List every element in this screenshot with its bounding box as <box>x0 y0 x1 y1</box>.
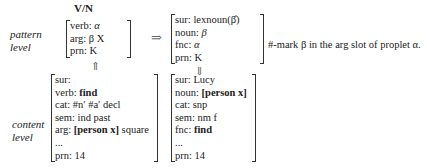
pattern-noun-proplet: sur: lexnoun(β̂) noun: β fnc: α prn: K <box>171 14 264 64</box>
avm-row: prn: K <box>175 52 259 65</box>
pattern-verb-proplet: verb: α arg: β X prn: K <box>66 20 131 58</box>
avm-row: sur: Lucy <box>175 74 251 87</box>
avm-row: cat: snp <box>175 99 251 112</box>
pattern-level-label: pattern level <box>10 28 42 54</box>
avm-row: fnc: find <box>175 124 251 137</box>
avm-row: sem: ind past <box>55 112 153 125</box>
avm-row: ... <box>55 137 153 150</box>
avm-row: arg: [person x] square <box>55 124 153 137</box>
avm-row: prn: K <box>70 45 126 58</box>
avm-row: cat: #n′ #a′ decl <box>55 99 153 112</box>
rule-title: V/N <box>74 2 93 14</box>
avm-row: noun: β <box>175 27 259 40</box>
avm-row: sur: <box>55 74 153 87</box>
content-level-label: content level <box>12 118 44 144</box>
rule-annotation: #-mark β in the arg slot of proplet α. <box>268 39 421 50</box>
avm-row: arg: β X <box>70 33 126 46</box>
avm-row: verb: α <box>70 20 126 33</box>
content-noun-proplet: sur: Lucy noun: [person x] cat: snp sem:… <box>171 74 256 162</box>
match-up-arrow-icon: ⇑ <box>91 60 100 73</box>
transform-arrow-icon: ⇒ <box>151 30 162 46</box>
avm-row: prn: 14 <box>55 150 153 163</box>
avm-row: prn: 14 <box>175 150 251 163</box>
content-verb-proplet: sur: verb: find cat: #n′ #a′ decl sem: i… <box>51 74 158 162</box>
avm-row: sur: lexnoun(β̂) <box>175 14 259 27</box>
avm-row: verb: find <box>55 87 153 100</box>
avm-row: ... <box>175 137 251 150</box>
avm-row: noun: [person x] <box>175 87 251 100</box>
avm-row: sem: nm f <box>175 112 251 125</box>
avm-row: fnc: α <box>175 39 259 52</box>
